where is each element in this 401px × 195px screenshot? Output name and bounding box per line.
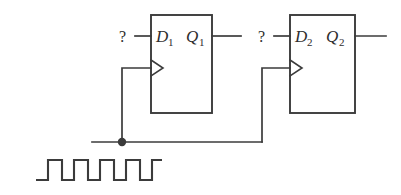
flipflop-2-q-subscript: 2 — [339, 36, 345, 48]
flipflop-1-d-subscript: 1 — [168, 36, 174, 48]
clock-branch-to-flipflop-2 — [262, 68, 290, 142]
flipflop-2-d-unknown-label: ? — [258, 28, 265, 45]
flipflop-1-q-subscript: 1 — [199, 36, 205, 48]
flipflop-1-d-unknown-label: ? — [119, 28, 126, 45]
clock-waveform — [36, 160, 162, 180]
flipflop-1-q-label: Q — [186, 27, 198, 46]
flipflop-2-q-label: Q — [326, 27, 338, 46]
flipflop-1-d-label: D — [155, 27, 169, 46]
flipflop-2-d-subscript: 2 — [307, 36, 313, 48]
clock-branch-to-flipflop-1 — [122, 68, 151, 142]
circuit-figure: ? D 1 Q 1 ? D 2 Q 2 — [0, 0, 401, 195]
flipflop-2-d-label: D — [294, 27, 308, 46]
flipflop-2: ? D 2 Q 2 — [258, 15, 386, 113]
flipflop-1: ? D 1 Q 1 — [119, 15, 241, 113]
clock-waveform-trace — [36, 160, 162, 180]
wire-junction-dot — [118, 138, 126, 146]
circuit-diagram: ? D 1 Q 1 ? D 2 Q 2 — [0, 0, 401, 195]
